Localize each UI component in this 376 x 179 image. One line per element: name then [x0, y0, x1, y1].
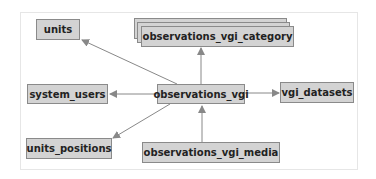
node-units[interactable]: units — [36, 19, 80, 40]
node-label: vgi_datasets — [281, 87, 352, 98]
node-observations-vgi-category[interactable]: observations_vgi_category — [141, 26, 294, 47]
node-observations-vgi[interactable]: observations_vgi — [157, 84, 245, 104]
node-label: units — [44, 24, 72, 35]
node-units-positions[interactable]: units_positions — [26, 138, 112, 159]
node-label: observations_vgi — [153, 89, 248, 100]
node-label: observations_vgi_media — [144, 147, 279, 158]
node-vgi-datasets[interactable]: vgi_datasets — [280, 82, 354, 103]
node-observations-vgi-media[interactable]: observations_vgi_media — [142, 142, 280, 163]
edge-to-units-positions — [113, 104, 170, 138]
node-label: observations_vgi_category — [143, 31, 293, 42]
node-system-users[interactable]: system_users — [27, 84, 108, 104]
node-label: system_users — [29, 89, 105, 100]
node-label: units_positions — [27, 143, 112, 154]
